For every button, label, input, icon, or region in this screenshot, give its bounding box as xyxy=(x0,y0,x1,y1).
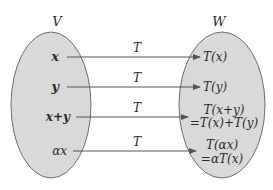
arrow-label-t-4: T xyxy=(133,135,142,149)
arrow-label-t-2: T xyxy=(133,71,142,85)
source-x-plus-y: x+y xyxy=(45,110,71,124)
arrow-label-t-3: T xyxy=(133,101,142,115)
codomain-set-label: W xyxy=(212,14,227,29)
source-alpha-x: αx xyxy=(52,144,67,158)
arrow-label-t-1: T xyxy=(133,41,142,55)
target-t-alpha-x: T(αx) xyxy=(206,138,239,152)
domain-set-label: V xyxy=(52,14,63,29)
target-t-x-plus-y: T(x+y) xyxy=(204,103,245,117)
target-t-x: T(x) xyxy=(203,50,227,64)
mapping-diagram: V W T T T T x y x+y αx T(x) T(y) T(x+y) … xyxy=(0,0,273,190)
source-x: x xyxy=(50,49,59,64)
target-t-y: T(y) xyxy=(203,80,227,94)
target-alpha-t-x: =αT(x) xyxy=(201,152,244,166)
source-y: y xyxy=(50,79,60,94)
target-t-x-plus-t-y: =T(x)+T(y) xyxy=(190,116,259,130)
